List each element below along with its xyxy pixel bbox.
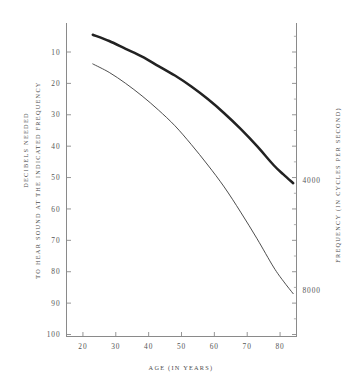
x-axis-ticks-group: 20304050607080 xyxy=(78,332,284,351)
x-tick-label: 70 xyxy=(243,342,252,351)
series-curve-4000 xyxy=(93,35,293,183)
axes-frame xyxy=(67,23,298,337)
y-tick-label: 60 xyxy=(51,205,60,214)
y-tick-label: 100 xyxy=(47,330,61,339)
x-tick-label: 60 xyxy=(210,342,219,351)
x-axis-title: AGE (IN YEARS) xyxy=(149,364,214,372)
y-axis-ticks-group: 102030405060708090100 xyxy=(47,48,71,340)
x-tick-label: 30 xyxy=(111,342,120,351)
y-tick-label: 40 xyxy=(51,142,60,151)
data-series-group xyxy=(93,35,293,294)
y-axis-title-line2: TO HEAR SOUND AT THE INDICATED FREQUENCY xyxy=(34,81,41,278)
y-tick-label: 30 xyxy=(51,110,60,119)
series-curve-8000 xyxy=(93,64,293,294)
y-tick-label: 70 xyxy=(51,236,60,245)
y2-axis-title: FREQUENCY (IN CYCLES PER SECOND) xyxy=(334,107,342,263)
y-axis-title-line1: DECIBELS NEEDED xyxy=(22,112,29,188)
frequency-label-8000: 8000 xyxy=(303,286,321,295)
y-tick-label: 50 xyxy=(51,173,60,182)
x-tick-label: 80 xyxy=(275,342,284,351)
x-tick-label: 20 xyxy=(78,342,87,351)
frequency-label-4000: 4000 xyxy=(303,176,321,185)
y-tick-label: 10 xyxy=(51,48,60,57)
x-tick-label: 50 xyxy=(177,342,186,351)
y-tick-label: 20 xyxy=(51,79,60,88)
frequency-annotations-group: 40008000 xyxy=(303,176,321,295)
hearing-loss-line-chart: 102030405060708090100 20304050607080 400… xyxy=(0,0,358,384)
figure-container: 102030405060708090100 20304050607080 400… xyxy=(0,0,358,384)
y-tick-label: 80 xyxy=(51,267,60,276)
x-tick-label: 40 xyxy=(144,342,153,351)
y2-axis-ticks-group xyxy=(292,36,297,334)
y-tick-label: 90 xyxy=(51,299,60,308)
